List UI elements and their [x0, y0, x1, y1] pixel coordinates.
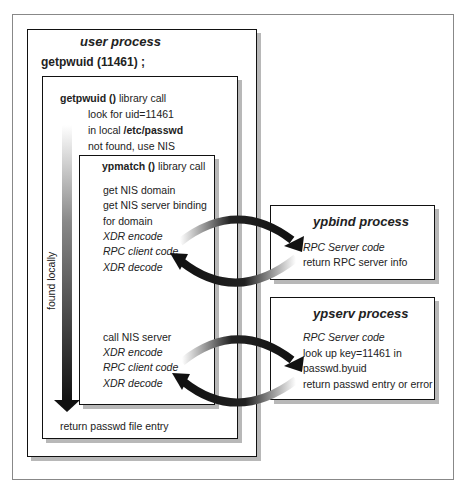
ypserv-request-arrow-icon [182, 339, 304, 372]
ypbind-request-arrow-icon [180, 219, 304, 252]
ypbind-response-arrow-icon [170, 253, 296, 283]
arrows-layer [0, 0, 465, 489]
ypserv-response-arrow-icon [172, 373, 296, 403]
found-locally-arrow-icon [54, 125, 80, 412]
